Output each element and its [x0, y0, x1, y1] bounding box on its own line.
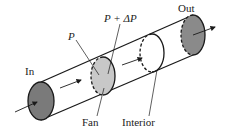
label-out: Out	[178, 2, 195, 14]
label-p-plus-dp: P + ΔP	[103, 12, 137, 24]
label-in: In	[25, 65, 35, 77]
flow-arrow-1	[60, 80, 81, 88]
label-p: P	[67, 30, 75, 42]
fan-disk	[91, 57, 115, 95]
flow-arrow-2	[122, 58, 142, 65]
interior-leader	[149, 70, 157, 116]
label-fan: Fan	[82, 116, 99, 128]
tube-bottom-edge	[41, 55, 193, 120]
tube-top-edge	[41, 15, 193, 82]
label-interior: Interior	[122, 116, 155, 128]
inlet-disk	[28, 82, 54, 120]
duct-diagram: In Out P P + ΔP Fan Interior	[0, 0, 229, 140]
interior-section	[140, 34, 164, 72]
